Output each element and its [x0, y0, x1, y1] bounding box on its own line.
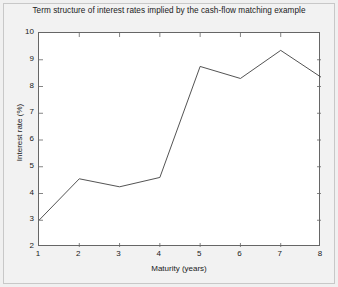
y-tick-label: 3: [6, 215, 34, 223]
x-tick-label: 1: [23, 250, 53, 258]
x-tick-label: 6: [224, 250, 254, 258]
x-tick-label: 2: [63, 250, 93, 258]
plot-area: [38, 32, 320, 246]
interest-rate-line: [39, 50, 321, 220]
y-tick-label: 8: [6, 82, 34, 90]
x-tick-label: 4: [144, 250, 174, 258]
x-tick-label: 5: [184, 250, 214, 258]
y-tick-label: 4: [6, 189, 34, 197]
x-tick-label: 7: [265, 250, 295, 258]
figure-window: Term structure of interest rates implied…: [0, 0, 338, 287]
y-tick-label: 7: [6, 108, 34, 116]
y-tick-label: 5: [6, 162, 34, 170]
y-axis-tick-labels: 2345678910: [4, 32, 34, 246]
x-tick-label: 8: [305, 250, 335, 258]
x-axis-tick-labels: 12345678: [38, 250, 320, 262]
chart-title: Term structure of interest rates implied…: [0, 6, 338, 15]
y-tick-label: 9: [6, 55, 34, 63]
y-tick-label: 10: [6, 28, 34, 36]
line-series-svg: [39, 33, 321, 247]
x-axis-label: Maturity (years): [38, 264, 320, 273]
axis-tick-marks: [39, 33, 321, 247]
x-tick-label: 3: [104, 250, 134, 258]
y-tick-label: 6: [6, 135, 34, 143]
y-tick-label: 2: [6, 242, 34, 250]
